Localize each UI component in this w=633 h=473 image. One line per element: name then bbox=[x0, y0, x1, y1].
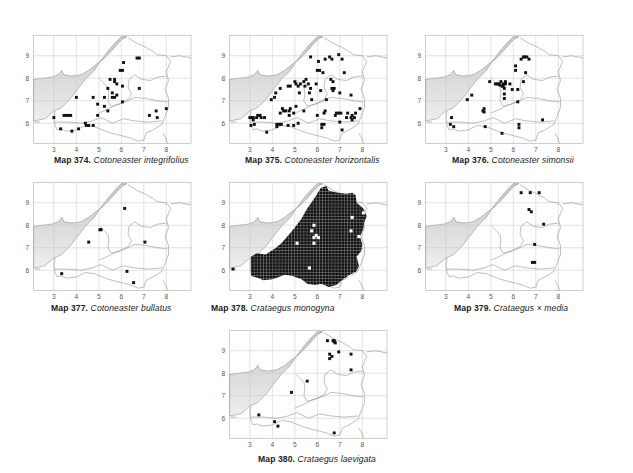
record-dot bbox=[359, 107, 362, 110]
y-tick-label: 8 bbox=[221, 75, 225, 82]
record-dot bbox=[263, 116, 266, 119]
x-tick-label: 4 bbox=[271, 293, 275, 300]
y-tick-label: 9 bbox=[25, 52, 29, 59]
record-dot bbox=[343, 71, 346, 74]
record-dot bbox=[508, 82, 511, 85]
y-tick-label: 6 bbox=[417, 120, 421, 127]
species-name: Cotoneaster simonsii bbox=[492, 155, 574, 165]
y-tick-label: 7 bbox=[221, 244, 225, 251]
x-tick-label: 8 bbox=[360, 146, 364, 153]
record-dot bbox=[122, 61, 125, 64]
record-dot bbox=[100, 228, 103, 231]
x-tick-label: 8 bbox=[556, 293, 560, 300]
record-dot bbox=[326, 339, 329, 342]
y-tick-label: 8 bbox=[25, 75, 29, 82]
y-tick-label: 8 bbox=[221, 370, 225, 377]
record-dot bbox=[306, 380, 309, 383]
y-tick-label: 6 bbox=[25, 267, 29, 274]
record-dot bbox=[323, 123, 326, 126]
x-tick-label: 5 bbox=[97, 146, 101, 153]
record-dot bbox=[328, 357, 331, 360]
record-dot bbox=[350, 368, 353, 371]
x-tick-label: 5 bbox=[293, 293, 297, 300]
distribution-map-379: 3456786789 bbox=[427, 177, 583, 307]
record-dot bbox=[96, 114, 99, 117]
x-tick-label: 3 bbox=[248, 441, 252, 448]
x-tick-label: 6 bbox=[315, 441, 319, 448]
record-dot bbox=[123, 207, 126, 210]
record-dot bbox=[514, 69, 517, 72]
y-tick-label: 7 bbox=[25, 244, 29, 251]
record-dot bbox=[341, 128, 344, 131]
record-dot bbox=[288, 114, 291, 117]
record-dot bbox=[541, 118, 544, 121]
map-caption-376: Map 376. Cotoneaster simonsii bbox=[452, 155, 574, 165]
y-tick-label: 8 bbox=[417, 222, 421, 229]
record-dot bbox=[321, 71, 324, 74]
map-number: Map 380. bbox=[258, 454, 298, 464]
record-dot bbox=[516, 100, 519, 103]
map-number: Map 377. bbox=[51, 303, 91, 313]
x-tick-label: 7 bbox=[142, 146, 146, 153]
record-dot bbox=[452, 125, 455, 128]
y-tick-label: 9 bbox=[221, 52, 225, 59]
record-dot bbox=[59, 127, 62, 130]
record-dot bbox=[503, 97, 506, 100]
record-dot bbox=[87, 124, 90, 127]
record-dot bbox=[528, 58, 531, 61]
record-dot bbox=[337, 53, 340, 56]
record-dot bbox=[470, 94, 473, 97]
distribution-map-377: 3456786789 bbox=[35, 177, 191, 307]
record-dot bbox=[252, 118, 255, 121]
record-dot bbox=[341, 58, 344, 61]
record-dot bbox=[449, 123, 452, 126]
x-tick-label: 7 bbox=[142, 293, 146, 300]
x-tick-label: 6 bbox=[119, 146, 123, 153]
distribution-map-374: 3456786789 bbox=[35, 30, 191, 160]
record-dot bbox=[279, 87, 282, 90]
record-dot bbox=[132, 281, 135, 284]
record-dot bbox=[257, 413, 260, 416]
x-tick-label: 3 bbox=[52, 293, 56, 300]
record-dot bbox=[332, 89, 335, 92]
y-tick-label: 9 bbox=[221, 199, 225, 206]
map-number: Map 374. bbox=[54, 155, 94, 165]
record-dot bbox=[232, 268, 235, 271]
x-tick-label: 3 bbox=[52, 146, 56, 153]
x-tick-label: 4 bbox=[271, 441, 275, 448]
species-name: Cotoneaster horizontalis bbox=[285, 155, 380, 165]
record-dot bbox=[284, 109, 287, 112]
x-tick-label: 8 bbox=[360, 293, 364, 300]
record-dot bbox=[310, 98, 313, 101]
record-dot bbox=[96, 103, 99, 106]
record-dot bbox=[289, 85, 292, 88]
record-dot bbox=[92, 96, 95, 99]
record-dot bbox=[501, 85, 504, 88]
record-dot bbox=[292, 124, 295, 127]
x-tick-label: 4 bbox=[271, 146, 275, 153]
record-dot bbox=[337, 350, 340, 353]
x-tick-label: 4 bbox=[467, 293, 471, 300]
record-dot bbox=[483, 111, 486, 114]
record-dot bbox=[320, 126, 323, 129]
y-tick-label: 7 bbox=[25, 97, 29, 104]
record-dot bbox=[138, 87, 141, 90]
record-dot bbox=[330, 58, 333, 61]
species-name: Cotoneaster integrifolius bbox=[94, 155, 189, 165]
distribution-map-378: 3456786789 bbox=[231, 177, 387, 307]
record-dot bbox=[106, 87, 109, 90]
distribution-map-380: 3456786789 bbox=[231, 325, 387, 455]
record-dot bbox=[345, 116, 348, 119]
x-tick-label: 7 bbox=[338, 293, 342, 300]
record-dot bbox=[75, 96, 78, 99]
x-tick-label: 5 bbox=[293, 146, 297, 153]
map-canvas: 3456786789 bbox=[215, 177, 387, 307]
record-dot bbox=[338, 91, 341, 94]
record-dot bbox=[504, 80, 507, 83]
record-dot bbox=[121, 100, 124, 103]
x-tick-label: 8 bbox=[164, 146, 168, 153]
x-tick-label: 3 bbox=[444, 146, 448, 153]
x-tick-label: 8 bbox=[360, 441, 364, 448]
map-canvas: 3456786789 bbox=[215, 325, 387, 455]
map-number: Map 376. bbox=[452, 155, 492, 165]
